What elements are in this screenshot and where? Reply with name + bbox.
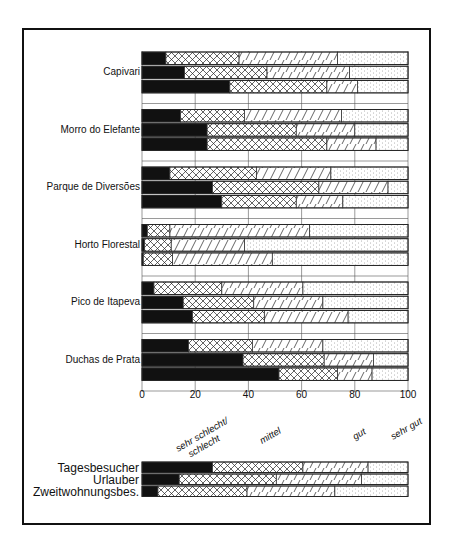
- dotted-segment: [376, 138, 408, 151]
- solid-black-segment: [142, 296, 183, 309]
- solid-black-segment: [142, 80, 230, 93]
- svg-text:gut: gut: [351, 425, 368, 441]
- crosshatch-segment: [185, 66, 267, 79]
- stacked-bar: [142, 181, 408, 194]
- diagonal-hatch-segment: [239, 52, 337, 65]
- x-tick-label: 80: [349, 389, 361, 400]
- stacked-bar: [142, 66, 408, 79]
- group-label: Capivari: [103, 66, 140, 77]
- legend-label: sehr gut: [389, 415, 425, 442]
- diagonal-hatch-segment: [296, 195, 343, 208]
- crosshatch-segment: [189, 340, 253, 353]
- solid-black-segment: [142, 310, 193, 323]
- bar-group: Pico de Itapeva: [71, 282, 408, 323]
- dotted-segment: [372, 368, 408, 381]
- diagonal-hatch-segment: [222, 282, 303, 295]
- diagonal-hatch-segment: [327, 138, 376, 151]
- crosshatch-segment: [183, 296, 253, 309]
- stacked-bar: [142, 474, 408, 485]
- stacked-bar: [142, 486, 408, 497]
- dotted-segment: [349, 66, 408, 79]
- stacked-bar: [142, 80, 408, 93]
- solid-black-segment: [142, 368, 279, 381]
- stacked-bar: [142, 282, 408, 295]
- x-tick-label: 40: [243, 389, 255, 400]
- legend-label: mittel: [258, 424, 284, 445]
- group-label: Morro do Elefante: [61, 124, 141, 135]
- solid-black-segment: [142, 282, 154, 295]
- group-label: Duchas de Prata: [66, 354, 141, 365]
- crosshatch-segment: [143, 253, 172, 266]
- solid-black-segment: [142, 462, 212, 473]
- group-label: Horto Florestal: [74, 239, 140, 250]
- stacked-bar: [142, 296, 408, 309]
- stacked-bar: [142, 310, 408, 323]
- crosshatch-segment: [230, 80, 327, 93]
- dotted-segment: [323, 340, 408, 353]
- stacked-bar: [142, 167, 408, 180]
- diagonal-hatch-segment: [171, 239, 244, 252]
- stacked-bar-chart: CapivariMorro do ElefanteParque de Diver…: [0, 0, 454, 552]
- solid-black-segment: [142, 52, 166, 65]
- x-tick-label: 20: [190, 389, 202, 400]
- diagonal-hatch-segment: [252, 340, 322, 353]
- dotted-segment: [368, 462, 408, 473]
- dotted-segment: [272, 253, 408, 266]
- stacked-bar: [142, 239, 408, 252]
- solid-black-segment: [142, 167, 170, 180]
- dotted-segment: [310, 225, 408, 238]
- crosshatch-segment: [212, 462, 302, 473]
- stacked-bar: [142, 225, 408, 238]
- diagonal-hatch-segment: [247, 486, 335, 497]
- crosshatch-segment: [147, 225, 170, 238]
- legend-labels: sehr schlecht/schlechtmittelgutsehr gut: [174, 414, 425, 463]
- solid-black-segment: [142, 195, 222, 208]
- diagonal-hatch-segment: [338, 368, 373, 381]
- crosshatch-segment: [279, 368, 338, 381]
- bar-group: Duchas de Prata: [66, 340, 409, 381]
- dotted-segment: [357, 80, 408, 93]
- diagonal-hatch-segment: [319, 181, 388, 194]
- dotted-segment: [331, 167, 408, 180]
- crosshatch-segment: [145, 239, 172, 252]
- diagonal-hatch-segment: [244, 110, 341, 123]
- diagonal-hatch-segment: [327, 80, 358, 93]
- crosshatch-segment: [166, 52, 239, 65]
- dotted-segment: [361, 474, 408, 485]
- diagonal-hatch-segment: [254, 296, 323, 309]
- x-axis-ticks: 020406080100: [139, 389, 417, 400]
- dotted-segment: [388, 181, 408, 194]
- diagonal-hatch-segment: [173, 253, 273, 266]
- dotted-segment: [348, 310, 408, 323]
- solid-black-segment: [142, 225, 147, 238]
- solid-black-segment: [142, 474, 179, 485]
- solid-black-segment: [142, 486, 158, 497]
- crosshatch-segment: [181, 110, 245, 123]
- stacked-bar: [142, 253, 408, 266]
- dotted-segment: [355, 124, 408, 137]
- solid-black-segment: [142, 181, 212, 194]
- crosshatch-segment: [193, 310, 265, 323]
- dotted-segment: [373, 354, 408, 367]
- crosshatch-segment: [243, 354, 324, 367]
- dotted-segment: [244, 239, 408, 252]
- diagonal-hatch-segment: [276, 474, 361, 485]
- bar-group: Horto Florestal: [74, 225, 408, 266]
- summary-bars: TagesbesucherUrlauberZweitwohnungsbes.: [33, 461, 408, 499]
- stacked-bar: [142, 124, 408, 137]
- bar-group: Capivari: [103, 52, 408, 93]
- stacked-bar: [142, 354, 408, 367]
- diagonal-hatch-segment: [267, 66, 349, 79]
- stacked-bar: [142, 462, 408, 473]
- solid-black-segment: [142, 138, 207, 151]
- group-label: Parque de Diversões: [47, 181, 140, 192]
- summary-bar-label: Zweitwohnungsbes.: [33, 485, 139, 499]
- dotted-segment: [343, 195, 408, 208]
- crosshatch-segment: [158, 486, 247, 497]
- solid-black-segment: [142, 110, 181, 123]
- x-tick-label: 100: [400, 389, 417, 400]
- bar-group: Morro do Elefante: [61, 110, 409, 151]
- x-tick-label: 0: [139, 389, 145, 400]
- legend-label: sehr schlecht/schlecht: [174, 414, 237, 463]
- solid-black-segment: [142, 354, 243, 367]
